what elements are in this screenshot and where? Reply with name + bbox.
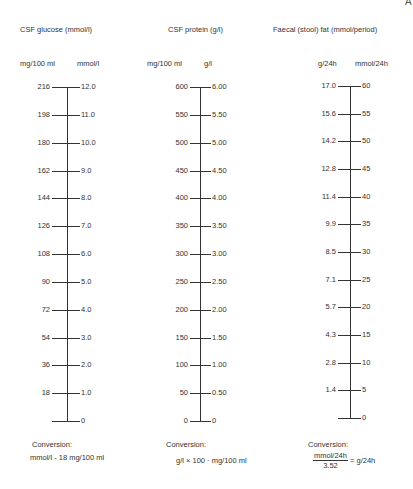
faecal-left-tick-label: 4.3: [306, 331, 336, 339]
glucose-title: CSF glucose (mmol/l): [20, 25, 92, 34]
protein-left-tick-label: 550: [158, 111, 188, 119]
faecal-tick: [338, 307, 361, 308]
faecal-right-tick-label: 60: [362, 82, 392, 90]
faecal-left-tick-label: 1.4: [306, 386, 336, 394]
faecal-left-tick-label: 7.1: [306, 276, 336, 284]
protein-title: CSF protein (g/l): [168, 25, 223, 34]
protein-left-tick-label: 450: [158, 167, 188, 175]
faecal-tick: [338, 280, 361, 281]
faecal-tick: [338, 418, 361, 419]
protein-left-tick-label: 250: [158, 278, 188, 286]
faecal-tick: [338, 252, 361, 253]
glucose-left-tick-label: 180: [20, 139, 50, 147]
glucose-tick: [52, 198, 80, 199]
glucose-tick: [52, 171, 80, 172]
faecal-right-tick-label: 30: [362, 248, 392, 256]
faecal-tick: [338, 197, 361, 198]
protein-left-unit: mg/100 ml: [147, 59, 182, 68]
faecal-tick: [338, 390, 361, 391]
glucose-tick: [52, 310, 80, 311]
faecal-left-tick-label: 11.4: [306, 193, 336, 201]
glucose-tick: [52, 365, 80, 366]
faecal-conversion-heading: Conversion:: [308, 440, 348, 449]
faecal-left-tick-label: 17.0: [306, 82, 336, 90]
faecal-right-tick-label: 10: [362, 359, 392, 367]
faecal-left-tick-label: 5.7: [306, 303, 336, 311]
glucose-right-tick-label: 3.0: [81, 334, 111, 342]
glucose-tick: [52, 87, 80, 88]
protein-left-tick-label: 100: [158, 361, 188, 369]
faecal-right-tick-label: 5: [362, 386, 392, 394]
faecal-tick: [338, 363, 361, 364]
glucose-left-tick-label: 162: [20, 167, 50, 175]
glucose-tick: [52, 282, 80, 283]
protein-right-tick-label: 0: [212, 417, 242, 425]
glucose-right-tick-label: 11.0: [81, 111, 111, 119]
protein-tick: [190, 115, 211, 116]
protein-right-tick-label: 4.50: [212, 167, 242, 175]
protein-tick: [190, 393, 211, 394]
faecal-right-tick-label: 15: [362, 331, 392, 339]
faecal-tick: [338, 86, 361, 87]
faecal-tick: [338, 169, 361, 170]
glucose-tick: [52, 393, 80, 394]
protein-tick: [190, 365, 211, 366]
protein-right-unit: g/l: [204, 59, 212, 68]
protein-left-tick-label: 500: [158, 139, 188, 147]
protein-tick: [190, 226, 211, 227]
protein-right-tick-label: 5.00: [212, 139, 242, 147]
protein-conversion-heading: Conversion:: [166, 440, 206, 449]
glucose-right-tick-label: 4.0: [81, 306, 111, 314]
protein-tick: [190, 282, 211, 283]
protein-left-tick-label: 150: [158, 334, 188, 342]
protein-left-tick-label: 350: [158, 222, 188, 230]
faecal-right-tick-label: 20: [362, 303, 392, 311]
glucose-right-tick-label: 8.0: [81, 194, 111, 202]
protein-tick: [190, 338, 211, 339]
glucose-conversion-heading: Conversion:: [32, 440, 72, 449]
glucose-tick: [52, 226, 80, 227]
protein-right-tick-label: 6.00: [212, 83, 242, 91]
glucose-left-tick-label: 144: [20, 194, 50, 202]
faecal-title: Faecal (stool) fat (mmol/period): [273, 25, 377, 34]
protein-tick: [190, 421, 211, 422]
glucose-left-tick-label: 18: [20, 389, 50, 397]
protein-left-tick-label: 600: [158, 83, 188, 91]
glucose-right-tick-label: 12.0: [81, 83, 111, 91]
faecal-right-unit: mmol/24h: [355, 59, 388, 68]
protein-right-tick-label: 1.00: [212, 361, 242, 369]
protein-left-tick-label: 400: [158, 194, 188, 202]
faecal-conversion-denominator: 3.52: [313, 461, 348, 470]
faecal-right-tick-label: 35: [362, 220, 392, 228]
faecal-conversion-result: = g/24h: [350, 456, 375, 465]
protein-right-tick-label: 3.00: [212, 250, 242, 258]
faecal-conversion-numerator: mmol/24h: [313, 451, 348, 461]
glucose-left-tick-label: 90: [20, 278, 50, 286]
glucose-right-tick-label: 10.0: [81, 139, 111, 147]
protein-left-tick-label: 50: [158, 389, 188, 397]
faecal-left-unit: g/24h: [318, 59, 337, 68]
protein-tick: [190, 87, 211, 88]
glucose-right-tick-label: 5.0: [81, 278, 111, 286]
glucose-tick: [52, 254, 80, 255]
protein-conversion-formula: g/l × 100 · mg/100 ml: [176, 456, 247, 465]
faecal-left-tick-label: 14.2: [306, 137, 336, 145]
protein-tick: [190, 310, 211, 311]
faecal-left-tick-label: 9.9: [306, 220, 336, 228]
protein-tick: [190, 171, 211, 172]
faecal-right-tick-label: 55: [362, 110, 392, 118]
glucose-left-tick-label: 198: [20, 111, 50, 119]
protein-right-tick-label: 2.00: [212, 306, 242, 314]
protein-left-tick-label: 300: [158, 250, 188, 258]
glucose-left-tick-label: 126: [20, 222, 50, 230]
faecal-tick: [338, 335, 361, 336]
glucose-right-tick-label: 0: [81, 417, 111, 425]
faecal-conversion-formula: mmol/24h 3.52 = g/24h: [313, 451, 375, 470]
glucose-tick: [52, 143, 80, 144]
glucose-left-unit: mg/100 ml: [20, 59, 55, 68]
glucose-right-tick-label: 6.0: [81, 250, 111, 258]
protein-right-tick-label: 4.00: [212, 194, 242, 202]
glucose-tick: [52, 115, 80, 116]
glucose-right-tick-label: 1.0: [81, 389, 111, 397]
faecal-left-tick-label: 8.5: [306, 248, 336, 256]
